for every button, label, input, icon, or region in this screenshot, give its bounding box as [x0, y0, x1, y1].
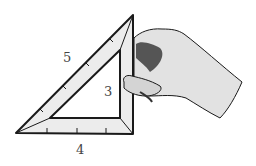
diagram-svg — [0, 0, 256, 166]
label-hypotenuse: 5 — [63, 50, 71, 65]
label-vertical-side: 3 — [104, 84, 112, 99]
figure: 5 3 4 — [0, 0, 256, 166]
hand — [134, 29, 242, 118]
label-base: 4 — [76, 142, 84, 157]
set-square — [16, 15, 133, 134]
hand-illustration — [123, 29, 242, 118]
